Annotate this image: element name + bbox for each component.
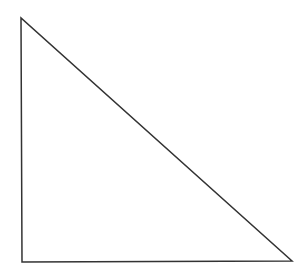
right-triangle	[21, 18, 292, 262]
diagram-canvas	[0, 0, 308, 276]
